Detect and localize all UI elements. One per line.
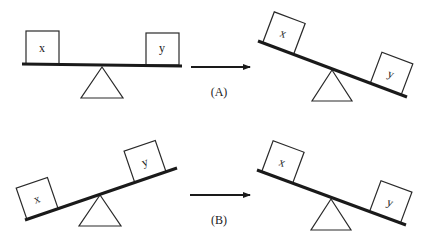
seesaw-beam [22, 64, 182, 66]
seesaw-b-after: x y [257, 141, 412, 230]
seesaw-b-before: x y [16, 141, 177, 226]
seesaw-a-after: x y [258, 12, 413, 101]
caption-a: (A) [211, 85, 228, 99]
label-y: y [159, 41, 165, 55]
label-x: x [39, 41, 45, 55]
caption-b: (B) [211, 213, 227, 227]
seesaw-diagram: x y (A) x y x y (B) x [0, 0, 432, 243]
fulcrum-icon [81, 67, 123, 98]
seesaw-a-before: x y [22, 31, 182, 98]
